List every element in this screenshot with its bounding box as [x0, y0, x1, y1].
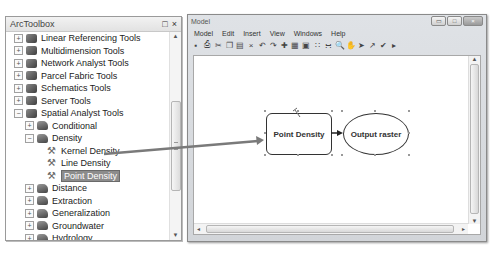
move-cursor-icon: [293, 108, 300, 117]
diagram-overlay: [0, 0, 493, 254]
drag-arrow-icon: [104, 136, 264, 154]
connector-arrow-icon: [331, 130, 343, 136]
